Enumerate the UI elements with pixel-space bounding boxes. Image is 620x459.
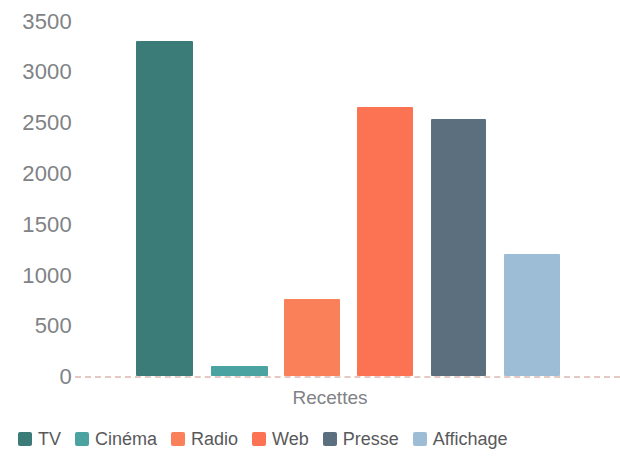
bar-presse[interactable] (431, 119, 486, 376)
legend-item-presse[interactable]: Presse (323, 429, 399, 449)
legend-swatch-icon (171, 432, 185, 446)
legend-swatch-icon (18, 432, 32, 446)
legend-swatch-icon (323, 432, 337, 446)
bar-cin-ma[interactable] (211, 366, 268, 376)
legend-item-label: Web (272, 429, 309, 449)
legend-item-label: Presse (343, 429, 399, 449)
bar-chart: 3500 3000 2500 2000 1500 1000 500 0 Rece… (0, 0, 620, 459)
bar-radio[interactable] (284, 299, 340, 376)
legend-swatch-icon (75, 432, 89, 446)
legend-item-radio[interactable]: Radio (171, 429, 238, 449)
bar-web[interactable] (357, 107, 413, 376)
legend-item-cin-ma[interactable]: Cinéma (75, 429, 157, 449)
legend-item-label: Radio (191, 429, 238, 449)
legend-swatch-icon (413, 432, 427, 446)
bar-series (0, 0, 620, 390)
legend-swatch-icon (252, 432, 266, 446)
legend-item-tv[interactable]: TV (18, 429, 61, 449)
legend-item-label: TV (38, 429, 61, 449)
legend-item-label: Affichage (433, 429, 508, 449)
x-axis-title: Recettes (0, 386, 620, 410)
bar-tv[interactable] (136, 41, 193, 376)
legend-item-affichage[interactable]: Affichage (413, 429, 508, 449)
plot-area: 3500 3000 2500 2000 1500 1000 500 0 Rece… (0, 0, 620, 390)
chart-legend: TVCinémaRadioWebPresseAffichage (0, 424, 620, 454)
legend-item-web[interactable]: Web (252, 429, 309, 449)
legend-item-label: Cinéma (95, 429, 157, 449)
bar-affichage[interactable] (504, 254, 560, 376)
